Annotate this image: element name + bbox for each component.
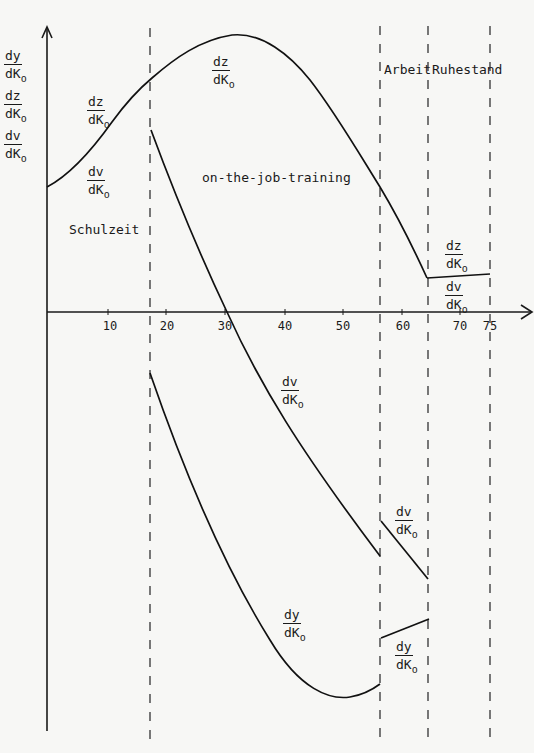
x-tick-20: 20 (160, 319, 174, 333)
diagram-canvas (0, 0, 534, 753)
phase-label-ruhestand: Ruhestand (432, 62, 502, 77)
label-dz-peak: dz dKo (212, 55, 236, 88)
label-dv-retirement: dv dKo (445, 280, 469, 313)
yaxis-label-dy: dy dKo (4, 49, 28, 82)
x-tick-50: 50 (336, 319, 350, 333)
label-dz-retirement: dz dKo (445, 239, 469, 272)
phase-label-schulzeit: Schulzeit (69, 222, 139, 237)
label-dv-work: dv dKo (395, 505, 419, 538)
x-tick-30: 30 (218, 319, 232, 333)
label-dv-ojt: dv dKo (281, 375, 305, 408)
label-dy-work: dy dKo (395, 640, 419, 673)
curve-dv-ojt (151, 130, 380, 556)
x-tick-10: 10 (103, 319, 117, 333)
label-dv-school: dv dKo (87, 165, 111, 198)
curve-dy-ojt (150, 373, 380, 697)
phase-label-arbeit: Arbeit (384, 62, 431, 77)
curve-dy-work (381, 619, 429, 638)
x-tick-40: 40 (278, 319, 292, 333)
curve-dz (47, 35, 427, 278)
curve-dz-retirement (427, 274, 490, 278)
yaxis-label-dz: dz dKo (4, 89, 28, 122)
label-dy-ojt: dy dKo (283, 608, 307, 641)
x-tick-60: 60 (396, 319, 410, 333)
x-tick-75: 75 (483, 319, 497, 333)
yaxis-label-dv: dv dKo (4, 129, 28, 162)
x-tick-70: 70 (453, 319, 467, 333)
phase-label-ojt: on-the-job-training (202, 170, 351, 185)
label-dz-school: dz dKo (87, 95, 111, 128)
